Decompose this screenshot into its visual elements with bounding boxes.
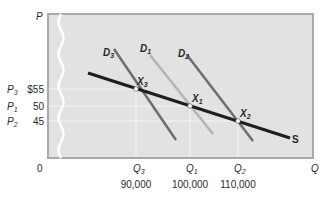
supply-demand-chart: D3 D1 D2 S X3 X1 X2 P Q 0 P3 $55 P1 50 P… bbox=[0, 0, 325, 197]
origin-label: 0 bbox=[37, 163, 43, 174]
y-tick-value-p3: $55 bbox=[27, 84, 44, 95]
y-tick-value-p1: 50 bbox=[33, 101, 45, 112]
x-tick-value-q2: 110,000 bbox=[220, 179, 256, 190]
plot-area bbox=[48, 14, 313, 158]
y-tick-symbol-p2: P2 bbox=[7, 116, 18, 128]
x-tick-symbol-q2: Q2 bbox=[234, 163, 246, 175]
y-tick-value-p2: 45 bbox=[33, 116, 45, 127]
label-s: S bbox=[292, 134, 299, 145]
x-tick-value-q3: 90,000 bbox=[121, 179, 152, 190]
y-axis-title: P bbox=[36, 11, 43, 22]
equilibrium-point-x1 bbox=[188, 104, 193, 109]
equilibrium-point-x2 bbox=[236, 119, 241, 124]
x-tick-symbol-q3: Q3 bbox=[133, 163, 145, 175]
y-tick-symbol-p3: P3 bbox=[7, 84, 18, 96]
x-tick-symbol-q1: Q1 bbox=[186, 163, 198, 175]
y-tick-symbol-p1: P1 bbox=[7, 101, 18, 113]
equilibrium-point-x3 bbox=[134, 87, 139, 92]
x-axis-title: Q bbox=[311, 163, 319, 174]
x-tick-value-q1: 100,000 bbox=[172, 179, 209, 190]
